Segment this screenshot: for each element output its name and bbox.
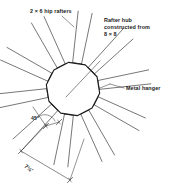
drawing-canvas: 2 × 6 hip rafters Rafter hub constructed…	[0, 0, 169, 195]
label-hip-rafters: 2 × 6 hip rafters	[30, 8, 72, 14]
label-rafter-hub: Rafter hub constructed from 8 × 8	[104, 17, 150, 39]
label-angle-45: 45°	[31, 115, 39, 121]
label-metal-hanger: Metal hanger	[126, 85, 160, 91]
